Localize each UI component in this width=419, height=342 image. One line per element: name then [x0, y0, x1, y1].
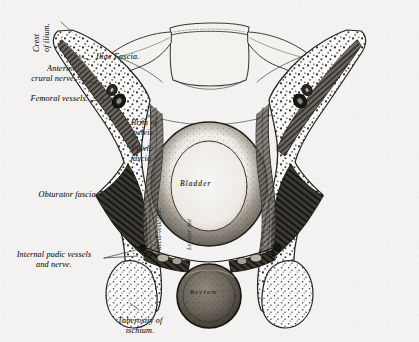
label-levator-ani: Levator Ani [186, 219, 193, 250]
label-internal-pudic-line1: Internal pudic vessels [17, 250, 92, 259]
label-internal-pudic-vessels-and-nerve: Internal pudic vessels and nerve. [4, 250, 104, 269]
label-brim-of-pelvis: Brim of pelvis. [122, 118, 166, 137]
label-rectum: Rectum [190, 288, 218, 296]
label-brim-of-pelvis-line2: pelvis. [133, 128, 155, 137]
pelvic-fascia-right [256, 104, 276, 254]
label-crest-of-ilium: Crest of ilium. [32, 23, 51, 52]
label-anterior-crural-nerve-line2: crural nerve. [31, 74, 76, 83]
label-iliac-fascia: Iliac Fascia. [96, 52, 139, 62]
sacrum-body [170, 23, 249, 89]
label-pelvic-fascia: Pelvic fascia. [122, 144, 162, 163]
rectum [177, 264, 241, 328]
label-recto-vesical-fascia: Recto-vesical F. [156, 208, 163, 250]
label-tuberosity-line2: ischium. [126, 326, 155, 335]
label-pelvic-fascia-line1: Pelvic [131, 144, 152, 153]
ischial-tuberosity-right [262, 261, 313, 328]
label-obturator-fascia: Obturator fascia. [0, 190, 98, 200]
label-pelvic-fascia-line2: fascia. [131, 154, 154, 163]
label-femoral-vessels: Femoral vessels. [0, 94, 88, 104]
label-tuberosity-line1: Tuberosity of [118, 316, 163, 325]
label-internal-pudic-line2: and nerve. [36, 260, 72, 269]
label-tuberosity-of-ischium: Tuberosity of ischium. [98, 316, 182, 335]
label-crest-of-ilium-line2: of ilium. [42, 23, 51, 52]
label-brim-of-pelvis-line1: Brim of [131, 118, 157, 127]
anatomical-plate: Crest of ilium. Iliac Fascia. Anterior c… [0, 0, 419, 342]
label-crest-of-ilium-line1: Crest [32, 34, 41, 52]
label-anterior-crural-nerve: Anterior crural nerve. [0, 64, 76, 83]
label-bladder: Bladder [180, 180, 212, 189]
label-anterior-crural-nerve-line1: Anterior [47, 64, 76, 73]
